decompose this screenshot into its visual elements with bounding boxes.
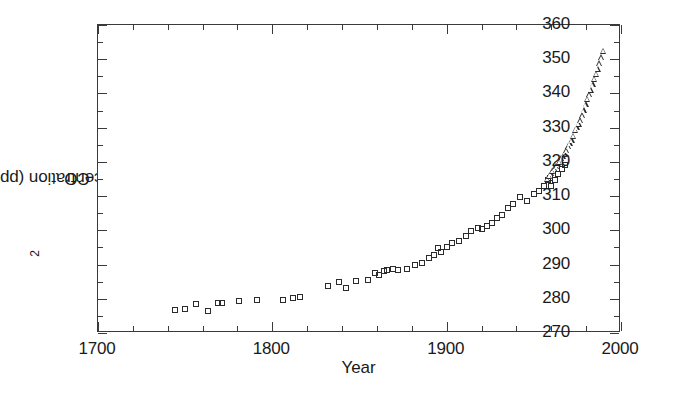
y-tick-label-300: 300 [542, 220, 570, 237]
data-point-triangle [598, 54, 604, 60]
x-tick-top-1800 [272, 25, 273, 34]
y-tick-285 [98, 282, 103, 283]
x-tick-top-1720 [133, 25, 134, 30]
y-tick-335 [98, 111, 103, 112]
x-tick-label-1800: 1800 [253, 340, 290, 357]
x-tick-top-1780 [237, 25, 238, 30]
data-point-square [343, 285, 349, 291]
y-tick-right-300 [610, 230, 619, 231]
x-tick-1980 [586, 326, 587, 331]
x-tick-top-1820 [307, 25, 308, 30]
x-axis-title: Year [97, 358, 620, 378]
x-tick-label-2000: 2000 [601, 340, 638, 357]
data-point-triangle [591, 76, 597, 82]
data-point-square [280, 297, 286, 303]
y-tick-label-270: 270 [542, 323, 570, 340]
data-point-triangle [583, 101, 589, 107]
y-tick-325 [98, 145, 103, 146]
y-axis-title: CO2 concentration (ppmv) [18, 0, 44, 356]
data-point-triangle [595, 66, 601, 72]
y-axis-title-subscript: 2 [28, 250, 42, 257]
data-point-square [404, 266, 410, 272]
y-tick-right-315 [614, 179, 619, 180]
y-tick-280 [98, 299, 107, 300]
data-point-triangle [579, 112, 585, 118]
y-tick-305 [98, 213, 103, 214]
y-tick-right-325 [614, 145, 619, 146]
y-tick-right-335 [614, 111, 619, 112]
y-tick-300 [98, 230, 107, 231]
data-point-square [517, 194, 523, 200]
x-tick-top-1940 [516, 25, 517, 30]
y-tick-330 [98, 128, 107, 129]
y-tick-315 [98, 179, 103, 180]
x-tick-1880 [412, 326, 413, 331]
y-tick-label-350: 350 [542, 49, 570, 66]
y-tick-right-305 [614, 213, 619, 214]
data-point-square [297, 294, 303, 300]
data-point-square [395, 267, 401, 273]
data-point-square [336, 279, 342, 285]
data-point-square [536, 188, 542, 194]
y-tick-label-360: 360 [542, 15, 570, 32]
y-tick-label-280: 280 [542, 289, 570, 306]
x-tick-1760 [203, 326, 204, 331]
x-tick-top-1900 [447, 25, 448, 34]
x-tick-top-1860 [377, 25, 378, 30]
x-tick-label-1700: 1700 [78, 340, 115, 357]
y-tick-320 [98, 162, 107, 163]
data-point-triangle [596, 60, 602, 66]
x-tick-top-1740 [168, 25, 169, 30]
y-tick-295 [98, 247, 103, 248]
data-point-square [236, 298, 242, 304]
x-tick-1920 [482, 326, 483, 331]
data-point-square [499, 212, 505, 218]
y-tick-290 [98, 265, 107, 266]
x-tick-2000 [621, 322, 622, 331]
y-tick-label-310: 310 [542, 186, 570, 203]
y-tick-345 [98, 76, 103, 77]
y-tick-310 [98, 196, 107, 197]
data-point-square [431, 252, 437, 258]
plot-area [97, 24, 620, 332]
data-point-square [290, 295, 296, 301]
data-point-square [353, 278, 359, 284]
data-point-square [510, 201, 516, 207]
data-point-square [555, 171, 561, 177]
y-tick-label-290: 290 [542, 255, 570, 272]
y-tick-right-350 [610, 59, 619, 60]
data-point-square [524, 198, 530, 204]
y-tick-270 [98, 333, 107, 334]
x-tick-top-1980 [586, 25, 587, 30]
data-point-square [193, 301, 199, 307]
y-tick-right-285 [614, 282, 619, 283]
x-tick-top-1920 [482, 25, 483, 30]
data-point-triangle [577, 117, 583, 123]
x-tick-top-1880 [412, 25, 413, 30]
y-tick-right-320 [610, 162, 619, 163]
data-point-square [205, 308, 211, 314]
y-tick-275 [98, 316, 103, 317]
x-tick-1900 [447, 322, 448, 331]
data-point-square [172, 307, 178, 313]
x-tick-top-2000 [621, 25, 622, 34]
y-tick-label-340: 340 [542, 83, 570, 100]
data-point-square [219, 300, 225, 306]
data-point-square [325, 283, 331, 289]
x-tick-top-1700 [98, 25, 99, 34]
y-tick-right-345 [614, 76, 619, 77]
y-tick-label-330: 330 [542, 118, 570, 135]
y-tick-right-280 [610, 299, 619, 300]
y-tick-360 [98, 25, 107, 26]
y-tick-350 [98, 59, 107, 60]
data-point-triangle [600, 48, 606, 54]
x-tick-1740 [168, 326, 169, 331]
data-point-square [182, 306, 188, 312]
data-point-square [412, 262, 418, 268]
data-point-triangle [581, 107, 587, 113]
x-tick-top-1840 [342, 25, 343, 30]
data-point-square [552, 177, 558, 183]
data-point-square [449, 240, 455, 246]
data-point-triangle [570, 133, 576, 139]
x-tick-1800 [272, 322, 273, 331]
